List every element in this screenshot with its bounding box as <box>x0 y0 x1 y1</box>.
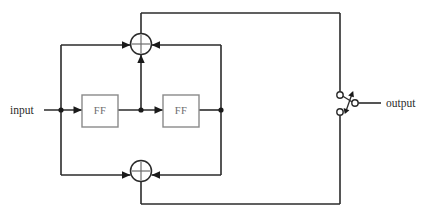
junction-dot-input-tap <box>58 107 63 112</box>
ff-block-1: FF <box>82 95 118 127</box>
block-diagram-canvas: FF FF i <box>0 0 433 217</box>
junction-dot-ff1-output <box>138 107 143 112</box>
junction-dot-ff2-output <box>218 107 223 112</box>
wire-adder-bottom-to-switch-lower <box>141 115 340 204</box>
switch-throw-lower-terminal[interactable] <box>337 109 343 115</box>
adder-top <box>131 34 152 55</box>
arrow-left-into-adder-top <box>122 41 131 48</box>
wire-adder-top-to-switch-upper <box>141 13 340 92</box>
output-label: output <box>386 97 416 110</box>
ff-block-2-label: FF <box>175 105 187 116</box>
arrow-into-ff2 <box>155 106 164 113</box>
arrow-into-ff1 <box>74 106 83 113</box>
adder-bottom <box>131 161 152 182</box>
diagram-svg: FF FF i <box>0 0 433 217</box>
output-switch[interactable] <box>337 91 381 115</box>
arrow-left-into-adder-bottom <box>122 171 131 178</box>
arrow-right-into-adder-top <box>152 41 161 48</box>
switch-pole-terminal[interactable] <box>352 100 358 106</box>
ff-block-1-label: FF <box>94 105 106 116</box>
input-label: input <box>10 104 34 117</box>
ff-block-2: FF <box>163 95 199 127</box>
wire-ff1-tap-to-adder-top <box>137 55 144 111</box>
arrow-right-into-adder-bottom <box>152 171 161 178</box>
switch-throw-upper-terminal[interactable] <box>337 92 343 98</box>
